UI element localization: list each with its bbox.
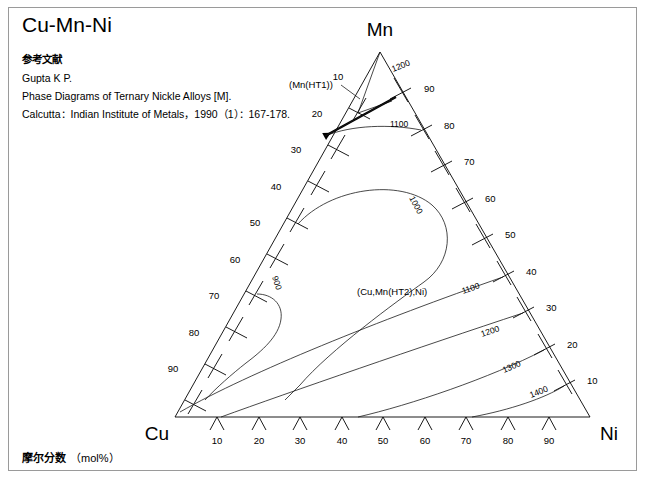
tick-label-right-20: 20	[567, 339, 578, 350]
tick-label-bottom-90: 90	[544, 435, 555, 446]
left-axis-ticks	[185, 98, 370, 414]
tick-label-bottom-10: 10	[212, 435, 223, 446]
vertex-label-ni: Ni	[600, 423, 618, 444]
axis-mn-ni	[380, 52, 590, 417]
tick-label-left-10: 10	[333, 71, 344, 82]
tick-label-right-10: 10	[587, 375, 598, 386]
tick-label-left-80: 80	[189, 327, 200, 338]
reference-heading: 参考文献	[22, 53, 63, 65]
isotherm-label-1200-lower: 1200	[479, 323, 500, 339]
isotherm-900-loop	[205, 294, 281, 400]
tick-label-bottom-30: 30	[295, 435, 306, 446]
tick-label-right-50: 50	[505, 229, 516, 240]
isotherm-label-1100-mid: 1100	[460, 280, 481, 295]
isotherm-1400	[472, 386, 564, 417]
axis-cu-mn	[175, 52, 380, 417]
phase-diagram-page: Cu-Mn-Ni 参考文献 Gupta K P. Phase Diagrams …	[0, 0, 646, 481]
tick-label-right-30: 30	[546, 302, 557, 313]
univariant-base-line	[325, 97, 396, 136]
isotherm-1100-mid	[180, 277, 503, 412]
isotherm-1200-apex-left	[358, 52, 380, 113]
tick-bottom-30	[293, 417, 307, 430]
isotherm-label-900: 900	[270, 275, 284, 292]
isotherm-label-1100-upper: 1100	[390, 119, 409, 129]
isotherm-label-1000: 1000	[407, 194, 425, 216]
right-axis-ticks	[390, 78, 575, 394]
phase-label-mn-ht1: (Mn(HT1))	[289, 79, 333, 90]
tick-bottom-90	[542, 417, 556, 430]
tick-label-right-60: 60	[485, 193, 496, 204]
caption-unit: （mol%）	[70, 452, 120, 464]
caption-mole-fraction: 摩尔分数	[22, 451, 67, 464]
tick-label-left-60: 60	[230, 254, 241, 265]
ternary-diagram: Cu-Mn-Ni 参考文献 Gupta K P. Phase Diagrams …	[0, 0, 646, 481]
tick-label-bottom-80: 80	[503, 435, 514, 446]
tick-label-left-40: 40	[271, 181, 282, 192]
tick-bottom-60	[418, 417, 432, 430]
isotherm-label-1300: 1300	[501, 358, 523, 375]
tick-bottom-50	[376, 417, 390, 430]
tick-label-left-90: 90	[168, 363, 179, 374]
tick-right-50	[472, 224, 493, 248]
isotherm-1200-lower	[221, 313, 523, 417]
tick-right-40	[493, 261, 514, 285]
vertex-label-cu: Cu	[145, 423, 169, 444]
phase-label-cu-mn-ht2-ni: (Cu,Mn(HT2),Ni)	[357, 286, 427, 297]
tick-label-bottom-60: 60	[420, 435, 431, 446]
reference-line-2: Phase Diagrams of Ternary Nickle Alloys …	[22, 90, 231, 102]
reference-line-3: Calcutta：Indian Institute of Metals，1990…	[22, 108, 290, 120]
tick-label-left-20: 20	[312, 108, 323, 119]
tick-bottom-40	[335, 417, 349, 430]
tick-bottom-70	[459, 417, 473, 430]
vertex-label-mn: Mn	[367, 19, 393, 40]
tick-label-left-50: 50	[250, 217, 261, 228]
tick-label-left-30: 30	[291, 144, 302, 155]
tick-label-bottom-70: 70	[461, 435, 472, 446]
tick-label-left-70: 70	[209, 290, 220, 301]
isotherm-label-1400: 1400	[528, 383, 550, 399]
tick-label-right-90: 90	[424, 83, 435, 94]
tick-label-right-70: 70	[464, 156, 475, 167]
reference-line-1: Gupta K P.	[22, 72, 72, 84]
tick-label-bottom-20: 20	[254, 435, 265, 446]
tick-bottom-80	[501, 417, 515, 430]
bottom-axis-ticks	[210, 417, 556, 430]
tick-bottom-10	[210, 417, 224, 430]
tick-right-80	[411, 115, 432, 139]
tick-label-bottom-50: 50	[378, 435, 389, 446]
isotherm-label-1200-apex: 1200	[390, 57, 412, 73]
tick-bottom-20	[252, 417, 266, 430]
page-title: Cu-Mn-Ni	[22, 13, 112, 36]
tick-label-bottom-40: 40	[337, 435, 348, 446]
tick-label-right-80: 80	[444, 120, 455, 131]
tick-label-right-40: 40	[526, 266, 537, 277]
